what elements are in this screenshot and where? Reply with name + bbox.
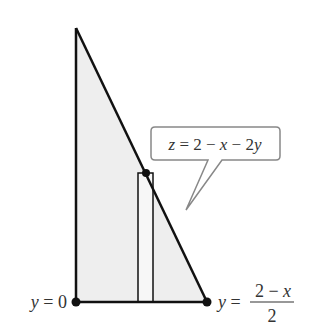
svg-text:y =: y = [216, 292, 241, 312]
upper-bound-label: y = 2 − x 2 [216, 281, 294, 326]
callout-bubble: z = 2 − x − 2y [151, 127, 280, 210]
diagram-canvas: z = 2 − x − 2y y = 0 y = 2 − x 2 [0, 0, 314, 335]
vertical-strip [138, 173, 153, 302]
upper-endpoint-dot [203, 298, 212, 307]
callout-label: z = 2 − x − 2y [168, 135, 262, 154]
lower-bound-label: y = 0 [29, 292, 67, 312]
fraction-numerator: 2 − x [255, 281, 291, 301]
fraction-denominator: 2 [268, 306, 277, 326]
strip-top-dot [142, 169, 150, 177]
lower-endpoint-dot [72, 298, 81, 307]
